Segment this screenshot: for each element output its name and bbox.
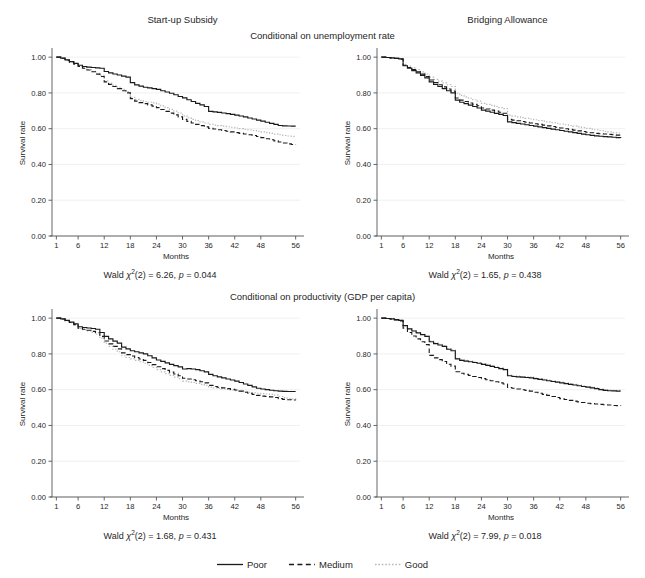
x-tick-label: 1	[54, 502, 58, 511]
x-tick-label: 1	[54, 241, 58, 250]
series-poor	[381, 318, 620, 391]
survival-plot: 0.000.200.400.600.801.001612182430364248…	[14, 44, 306, 268]
x-tick-label: 12	[425, 241, 433, 250]
legend-key-dashed-icon	[289, 560, 315, 569]
series-poor	[56, 318, 295, 391]
x-tick-label: 6	[401, 241, 405, 250]
x-tick-label: 18	[451, 241, 459, 250]
y-tick-label: 0.00	[31, 232, 46, 241]
x-tick-label: 56	[616, 502, 624, 511]
row-title-productivity: Conditional on productivity (GDP per cap…	[0, 291, 645, 302]
wald-stat: 1.68	[156, 531, 174, 541]
series-good	[56, 57, 295, 136]
y-axis-label: Survival rate	[18, 381, 27, 426]
series-good	[56, 318, 295, 399]
x-tick-label: 24	[152, 241, 160, 250]
survival-plot: 0.000.200.400.600.801.001612182430364248…	[339, 305, 631, 529]
x-tick-label: 1	[379, 241, 383, 250]
y-axis-label: Survival rate	[343, 120, 352, 165]
y-tick-label: 1.00	[31, 314, 46, 323]
y-tick-label: 0.20	[31, 196, 46, 205]
p-value: 0.438	[519, 270, 542, 280]
x-tick-label: 48	[582, 502, 590, 511]
x-tick-label: 18	[126, 241, 134, 250]
y-axis-label: Survival rate	[343, 381, 352, 426]
x-tick-label: 36	[529, 241, 537, 250]
y-tick-label: 1.00	[356, 314, 371, 323]
y-tick-label: 0.40	[356, 421, 371, 430]
panel-bottom-left: 0.000.200.400.600.801.001612182430364248…	[14, 305, 306, 529]
column-title-bridging-allowance: Bridging Allowance	[385, 14, 630, 25]
y-tick-label: 0.60	[356, 385, 371, 394]
legend-label-good: Good	[405, 559, 428, 570]
y-tick-label: 0.60	[31, 124, 46, 133]
panel-top-right: 0.000.200.400.600.801.001612182430364248…	[339, 44, 631, 268]
caption-bottom-right: Wald χ2(2) = 7.99, p = 0.018	[339, 529, 631, 541]
x-tick-label: 30	[503, 241, 511, 250]
y-tick-label: 0.20	[356, 457, 371, 466]
x-tick-label: 42	[556, 502, 564, 511]
x-tick-label: 48	[257, 502, 265, 511]
row-title-unemployment-rate: Conditional on unemployment rate	[0, 30, 645, 41]
x-axis-label: Months	[488, 513, 514, 522]
x-tick-label: 42	[231, 502, 239, 511]
x-tick-label: 42	[556, 241, 564, 250]
p-value: 0.044	[194, 270, 217, 280]
figure-canvas: Start-up Subsidy Bridging Allowance Cond…	[0, 0, 645, 578]
legend-item-good: Good	[375, 559, 428, 570]
x-tick-label: 56	[291, 502, 299, 511]
y-tick-label: 0.00	[31, 493, 46, 502]
legend-item-medium: Medium	[289, 559, 353, 570]
legend: Poor Medium Good	[0, 554, 645, 574]
x-tick-label: 6	[76, 502, 80, 511]
survival-plot: 0.000.200.400.600.801.001612182430364248…	[14, 305, 306, 529]
y-axis-label: Survival rate	[18, 120, 27, 165]
x-tick-label: 24	[477, 241, 485, 250]
x-tick-label: 30	[178, 241, 186, 250]
x-tick-label: 12	[100, 241, 108, 250]
x-tick-label: 6	[401, 502, 405, 511]
p-value: 0.431	[194, 531, 217, 541]
x-tick-label: 12	[425, 502, 433, 511]
x-tick-label: 36	[529, 502, 537, 511]
x-tick-label: 24	[477, 502, 485, 511]
x-tick-label: 6	[76, 241, 80, 250]
panel-top-left: 0.000.200.400.600.801.001612182430364248…	[14, 44, 306, 268]
legend-label-poor: Poor	[247, 559, 267, 570]
x-tick-label: 48	[582, 241, 590, 250]
x-tick-label: 56	[616, 241, 624, 250]
caption-bottom-left: Wald χ2(2) = 1.68, p = 0.431	[14, 529, 306, 541]
x-tick-label: 30	[178, 502, 186, 511]
legend-item-poor: Poor	[217, 559, 267, 570]
survival-plot: 0.000.200.400.600.801.001612182430364248…	[339, 44, 631, 268]
y-tick-label: 0.60	[31, 385, 46, 394]
x-axis-label: Months	[488, 252, 514, 261]
caption-top-left: Wald χ2(2) = 6.26, p = 0.044	[14, 268, 306, 280]
x-tick-label: 1	[379, 502, 383, 511]
column-title-startup-subsidy: Start-up Subsidy	[60, 14, 305, 25]
y-tick-label: 0.80	[31, 350, 46, 359]
legend-key-solid-icon	[217, 560, 243, 569]
series-medium	[56, 57, 295, 145]
y-tick-label: 0.40	[31, 160, 46, 169]
y-tick-label: 0.20	[356, 196, 371, 205]
x-axis-label: Months	[163, 513, 189, 522]
x-tick-label: 18	[126, 502, 134, 511]
x-tick-label: 42	[231, 241, 239, 250]
wald-stat: 7.99	[481, 531, 499, 541]
y-tick-label: 0.80	[356, 89, 371, 98]
panel-bottom-right: 0.000.200.400.600.801.001612182430364248…	[339, 305, 631, 529]
x-tick-label: 12	[100, 502, 108, 511]
y-tick-label: 0.60	[356, 124, 371, 133]
caption-top-right: Wald χ2(2) = 1.65, p = 0.438	[339, 268, 631, 280]
x-tick-label: 30	[503, 502, 511, 511]
y-tick-label: 0.80	[356, 350, 371, 359]
series-medium	[381, 318, 620, 406]
wald-stat: 1.65	[481, 270, 499, 280]
y-tick-label: 1.00	[31, 53, 46, 62]
y-tick-label: 0.40	[356, 160, 371, 169]
x-tick-label: 36	[204, 502, 212, 511]
legend-label-medium: Medium	[319, 559, 353, 570]
y-tick-label: 0.80	[31, 89, 46, 98]
y-tick-label: 0.20	[31, 457, 46, 466]
